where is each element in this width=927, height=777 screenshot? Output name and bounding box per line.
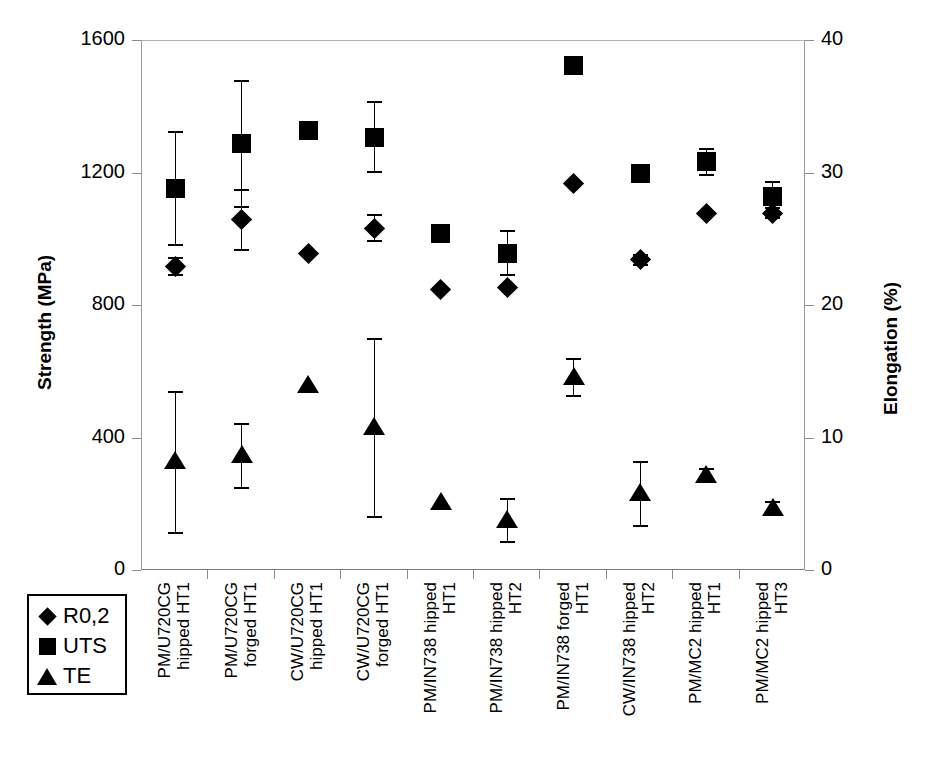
x-axis-category-label: CW/IN738 hipped HT2 (620, 582, 658, 767)
data-marker-triangle (563, 367, 585, 385)
error-bar-cap (765, 211, 780, 213)
legend-item-r02: R0,2 (36, 601, 125, 631)
data-marker-diamond (696, 203, 717, 224)
error-bar-cap (566, 395, 581, 397)
data-marker-square (763, 187, 782, 206)
x-axis-category-label: PM/MC2 hipped HT3 (753, 582, 791, 767)
data-marker-triangle (363, 417, 385, 435)
data-marker-square (232, 134, 251, 153)
data-marker-square (365, 128, 384, 147)
data-marker-square (631, 164, 650, 183)
error-bar-cap (168, 391, 183, 393)
data-marker-triangle (297, 375, 319, 393)
data-marker-triangle (164, 451, 186, 469)
x-axis-category-label: CW/U720CG forged HT1 (354, 582, 392, 767)
error-bar-cap (699, 174, 714, 176)
plot-area (141, 40, 805, 570)
x-axis-category-label: PM/IN738 hipped HT1 (421, 582, 459, 767)
error-bar-cap (500, 498, 515, 500)
error-bar-cap (633, 525, 648, 527)
y-axis-left-tick-label: 1200 (21, 160, 125, 183)
data-marker-diamond (497, 277, 518, 298)
y-axis-right-tick-mark (805, 40, 814, 41)
x-axis-tick-mark (739, 570, 740, 579)
data-marker-square (166, 179, 185, 198)
legend-label: TE (63, 665, 91, 687)
error-bar-cap (168, 244, 183, 246)
data-marker-diamond (430, 279, 451, 300)
y-axis-right-tick-mark (805, 570, 814, 571)
y-axis-right-tick-label: 40 (821, 27, 881, 50)
x-axis-category-label: PM/IN738 hipped HT2 (487, 582, 525, 767)
y-axis-right-title: Elongation (%) (880, 282, 902, 415)
x-axis-tick-mark (539, 570, 540, 579)
y-axis-left-tick-label: 800 (21, 292, 125, 315)
y-axis-right-tick-label: 20 (821, 292, 881, 315)
x-axis-tick-mark (340, 570, 341, 579)
error-bar-cap (234, 423, 249, 425)
legend-label: R0,2 (63, 605, 109, 627)
y-axis-right-tick-mark (805, 173, 814, 174)
legend-item-uts: UTS (36, 631, 125, 661)
data-marker-triangle (430, 492, 452, 510)
x-axis-tick-mark (473, 570, 474, 579)
x-axis-category-label: PM/U720CG hipped HT1 (155, 582, 193, 767)
error-bar-cap (367, 240, 382, 242)
y-axis-left-tick-label: 0 (21, 557, 125, 580)
error-bar-cap (367, 516, 382, 518)
error-bar-cap (699, 148, 714, 150)
x-axis-category-label: PM/MC2 hipped HT1 (686, 582, 724, 767)
x-axis-category-label: CW/U720CG hipped HT1 (288, 582, 326, 767)
data-marker-diamond (629, 249, 650, 270)
square-marker-icon (36, 638, 58, 655)
data-marker-triangle (762, 498, 784, 516)
chart-figure: Strength (MPa) Elongation (%) 0400800120… (0, 0, 927, 777)
y-axis-right-tick-label: 30 (821, 160, 881, 183)
y-axis-left-title: Strength (MPa) (34, 255, 56, 390)
data-marker-diamond (297, 242, 318, 263)
error-bar-cap (234, 206, 249, 208)
error-bar-cap (765, 181, 780, 183)
error-bar-cap (234, 487, 249, 489)
data-marker-square (431, 224, 450, 243)
data-marker-triangle (496, 510, 518, 528)
error-bar-cap (168, 532, 183, 534)
legend-item-te: TE (36, 661, 125, 691)
data-marker-square (697, 152, 716, 171)
data-marker-square (564, 56, 583, 75)
y-axis-right-tick-mark (805, 305, 814, 306)
data-marker-square (498, 244, 517, 263)
y-axis-left-tick-label: 400 (21, 425, 125, 448)
x-axis-tick-mark (274, 570, 275, 579)
data-marker-triangle (231, 445, 253, 463)
x-axis-category-label: PM/IN738 forged HT1 (554, 582, 592, 767)
error-bar-cap (234, 249, 249, 251)
y-axis-left-tick-mark (132, 173, 141, 174)
error-bar-cap (566, 358, 581, 360)
error-bar-cap (168, 131, 183, 133)
y-axis-left-tick-mark (132, 438, 141, 439)
error-bar-cap (633, 461, 648, 463)
error-bar-cap (367, 338, 382, 340)
data-marker-diamond (364, 218, 385, 239)
legend: R0,2 UTS TE (27, 594, 127, 695)
data-marker-triangle (629, 483, 651, 501)
triangle-marker-icon (36, 668, 58, 685)
error-bar-cap (500, 230, 515, 232)
diamond-marker-icon (36, 610, 58, 623)
error-bar-cap (500, 274, 515, 276)
x-axis-tick-mark (407, 570, 408, 579)
data-marker-square (299, 121, 318, 140)
y-axis-left-tick-mark (132, 40, 141, 41)
x-axis-tick-mark (672, 570, 673, 579)
x-axis-tick-mark (207, 570, 208, 579)
x-axis-category-label: PM/U720CG forged HT1 (222, 582, 260, 767)
error-bar-cap (367, 214, 382, 216)
data-marker-diamond (231, 209, 252, 230)
y-axis-left-tick-label: 1600 (21, 27, 125, 50)
x-axis-tick-mark (606, 570, 607, 579)
y-axis-right-tick-label: 0 (821, 557, 881, 580)
error-bar-cap (367, 171, 382, 173)
data-marker-diamond (563, 173, 584, 194)
data-marker-triangle (695, 465, 717, 483)
